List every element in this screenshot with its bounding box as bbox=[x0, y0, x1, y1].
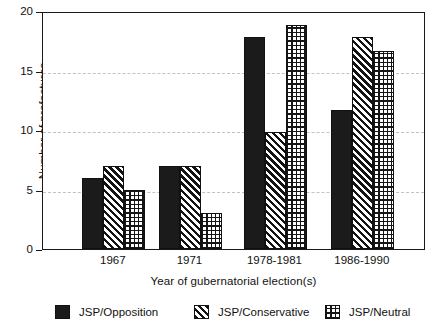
bar bbox=[244, 37, 265, 249]
bar-group bbox=[228, 11, 324, 249]
legend-item[interactable]: JSP/Conservative bbox=[194, 303, 309, 321]
plot-area bbox=[42, 12, 425, 250]
bar bbox=[180, 166, 201, 249]
y-axis-tick-label: 0 bbox=[0, 244, 33, 255]
legend-swatch-icon bbox=[55, 305, 70, 319]
legend-item[interactable]: JSP/Neutral bbox=[325, 303, 410, 321]
x-axis-title: Year of gubernatorial election(s) bbox=[42, 275, 425, 287]
legend-label: JSP/Opposition bbox=[79, 306, 158, 318]
bar bbox=[201, 213, 222, 249]
legend-swatch-icon bbox=[194, 305, 209, 319]
legend-item[interactable]: JSP/Opposition bbox=[55, 303, 158, 321]
bar bbox=[265, 132, 286, 249]
bar bbox=[82, 178, 103, 249]
legend-label: JSP/Conservative bbox=[218, 306, 309, 318]
bar bbox=[103, 166, 124, 249]
bar-chart-figure: Number of prefectures 05101520 196719711… bbox=[0, 0, 433, 331]
x-axis-tick-label: 1986-1990 bbox=[312, 254, 412, 266]
y-axis-tick-label: 20 bbox=[0, 6, 33, 17]
bar-group bbox=[143, 11, 239, 249]
bar bbox=[373, 51, 394, 249]
bar bbox=[331, 110, 352, 249]
bar bbox=[159, 166, 180, 249]
x-axis-tick-label: 1978-1981 bbox=[224, 254, 324, 266]
bar-group bbox=[315, 11, 411, 249]
y-axis-tick-label: 15 bbox=[0, 66, 33, 77]
y-axis-tick-label: 10 bbox=[0, 125, 33, 136]
y-axis-tick-mark bbox=[36, 250, 42, 251]
legend-label: JSP/Neutral bbox=[349, 306, 410, 318]
bar bbox=[352, 37, 373, 249]
bar bbox=[286, 25, 307, 249]
legend-swatch-icon bbox=[325, 305, 340, 319]
chart-legend: JSP/OppositionJSP/ConservativeJSP/Neutra… bbox=[0, 303, 433, 325]
y-axis-tick-label: 5 bbox=[0, 185, 33, 196]
